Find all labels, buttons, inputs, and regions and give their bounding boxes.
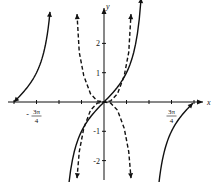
x-tick-label-denominator: 4 bbox=[170, 117, 174, 125]
x-tick-label-numerator: 3π bbox=[33, 108, 41, 116]
curve-arrow-icon bbox=[128, 173, 133, 178]
x-tick-label-numerator: 3π bbox=[168, 108, 176, 116]
y-tick-label: 2 bbox=[96, 39, 100, 48]
x-axis-arrow-icon bbox=[197, 100, 203, 105]
curve-arrow-icon bbox=[138, 0, 143, 3]
x-tick-label-sign: - bbox=[26, 110, 29, 119]
x-axis-label: x bbox=[206, 98, 211, 107]
x-tick-label-denominator: 4 bbox=[35, 117, 39, 125]
y-tick-label: -2 bbox=[93, 157, 100, 166]
tan-curve-branch bbox=[14, 12, 50, 102]
y-axis-label: y bbox=[105, 2, 110, 11]
chart: xy-2-1123π4-3π4 bbox=[0, 0, 216, 182]
curve-arrow-icon bbox=[128, 14, 133, 19]
curve-arrow-icon bbox=[75, 14, 80, 19]
y-tick-label: -1 bbox=[93, 127, 100, 136]
curve-arrow-icon bbox=[75, 173, 80, 178]
y-tick-label: 1 bbox=[96, 69, 100, 78]
tan-curve-branch bbox=[158, 103, 193, 182]
